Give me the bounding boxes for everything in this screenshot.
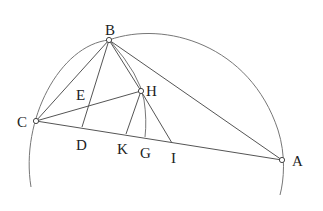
label-i: I (171, 150, 176, 166)
segment-hk (126, 91, 141, 134)
point-h-marker (138, 88, 143, 93)
label-e: E (76, 87, 85, 103)
circumcircle-arc (29, 33, 283, 195)
segment-ch (36, 91, 141, 121)
label-b: B (105, 22, 115, 38)
segment-ba (109, 40, 282, 160)
segment-ca (36, 121, 282, 160)
label-h: H (146, 83, 157, 99)
point-b-marker (106, 37, 111, 42)
label-d: D (76, 137, 87, 153)
segment-bh (109, 40, 141, 91)
point-c-marker (33, 118, 38, 123)
label-g: G (140, 145, 151, 161)
segment-bc (36, 40, 109, 121)
label-c: C (17, 114, 27, 130)
segment-bd (82, 40, 109, 127)
label-a: A (292, 153, 303, 169)
label-k: K (117, 141, 128, 157)
point-a-marker (279, 157, 284, 162)
geometry-diagram: B C E H D K G I A (0, 0, 323, 211)
